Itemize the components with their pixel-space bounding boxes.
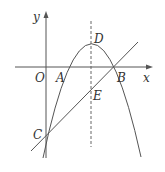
x-axis-arrow-icon <box>146 65 153 70</box>
point-d-label: D <box>93 32 104 46</box>
origin-label: O <box>35 71 45 85</box>
point-c-label: C <box>33 128 42 142</box>
y-axis-arrow-icon <box>44 11 49 18</box>
coordinate-diagram: y x O A B C D E <box>0 0 165 172</box>
y-axis-label: y <box>32 10 40 24</box>
point-a-label: A <box>55 71 65 85</box>
parabola <box>43 44 141 158</box>
point-b-label: B <box>116 71 126 85</box>
line-bc <box>31 42 138 151</box>
point-e-label: E <box>92 89 102 103</box>
x-axis-label: x <box>143 71 150 85</box>
